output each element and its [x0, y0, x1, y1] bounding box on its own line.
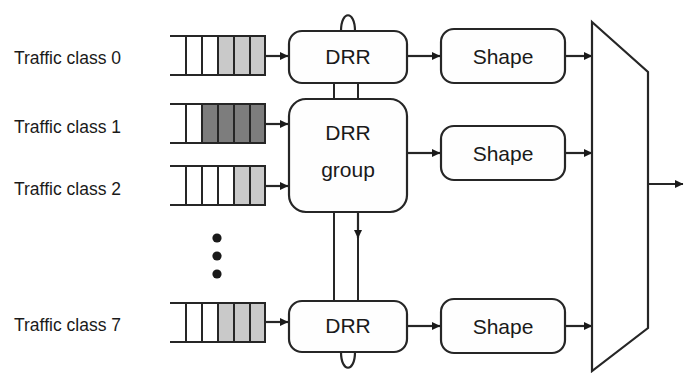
- ellipsis-dot: [212, 251, 221, 260]
- queue-cell: [186, 303, 202, 342]
- drr-bottom-loop-arc: [341, 352, 355, 368]
- drr-group-label-line2: group: [321, 158, 375, 181]
- shape-box-middle-label: Shape: [473, 142, 534, 165]
- queue-cell: [234, 166, 250, 205]
- queue-cell: [186, 166, 202, 205]
- queue-cell: [202, 104, 218, 143]
- queue-cell: [186, 104, 202, 143]
- traffic-class-row-1: Traffic class 1: [14, 104, 288, 143]
- queue-cell: [250, 166, 265, 205]
- queue-cell: [250, 104, 265, 143]
- drr-box-bottom-label: DRR: [325, 314, 371, 337]
- shape-box-bottom[interactable]: Shape: [441, 299, 565, 353]
- drr-box-top[interactable]: DRR: [289, 31, 407, 83]
- shape-box-top[interactable]: Shape: [441, 29, 565, 83]
- queue-cell: [202, 166, 218, 205]
- traffic-class-label-7: Traffic class 7: [14, 315, 121, 335]
- traffic-class-row-3: Traffic class 7: [14, 303, 288, 342]
- drr-group-label-line1: DRR: [325, 121, 371, 144]
- traffic-class-row-0: Traffic class 0: [14, 36, 288, 75]
- queue-cell: [202, 303, 218, 342]
- drr-box-bottom[interactable]: DRR: [289, 301, 407, 352]
- traffic-class-row-2: Traffic class 2: [14, 166, 288, 205]
- queue-cell: [250, 36, 265, 75]
- output-multiplexer[interactable]: [592, 22, 648, 371]
- queue-2: [170, 166, 265, 205]
- traffic-class-label-0: Traffic class 0: [14, 48, 121, 68]
- queue-1: [170, 104, 265, 143]
- drr-group-box[interactable]: DRR group: [289, 99, 407, 212]
- vertical-ellipsis: [212, 233, 221, 278]
- queue-0: [170, 36, 265, 75]
- queue-cell: [234, 303, 250, 342]
- queue-cell: [218, 303, 234, 342]
- queue-cell: [218, 166, 234, 205]
- queue-cell: [218, 36, 234, 75]
- shape-box-bottom-label: Shape: [473, 315, 534, 338]
- ellipsis-dot: [212, 233, 221, 242]
- queue-cell: [218, 104, 234, 143]
- ellipsis-dot: [212, 269, 221, 278]
- traffic-class-label-1: Traffic class 1: [14, 117, 121, 137]
- scheduling-diagram: Traffic class 0 Traffic class 1: [0, 0, 687, 385]
- diagram-canvas: Traffic class 0 Traffic class 1: [0, 0, 687, 385]
- drr-box-top-label: DRR: [325, 45, 371, 68]
- queue-7: [170, 303, 265, 342]
- queue-cell: [234, 36, 250, 75]
- drr-top-loop-arc: [341, 15, 355, 31]
- queue-cell: [202, 36, 218, 75]
- queue-cell: [250, 303, 265, 342]
- queue-cell: [234, 104, 250, 143]
- shape-box-middle[interactable]: Shape: [441, 126, 565, 180]
- shape-box-top-label: Shape: [473, 45, 534, 68]
- queue-cell: [186, 36, 202, 75]
- traffic-class-label-2: Traffic class 2: [14, 179, 121, 199]
